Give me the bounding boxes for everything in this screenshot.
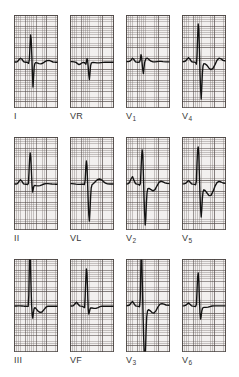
ecg-panel-V6 (182, 259, 226, 352)
ecg-row-chest-leads: III VF V3 V6 (0, 248, 239, 370)
lead-label-VL: VL (70, 233, 124, 244)
ecg-row-limb-leads-2: II VL V2 V5 (0, 126, 239, 248)
lead-label-text: II (14, 233, 19, 243)
ecg-trace-V3 (126, 259, 170, 352)
lead-label-VR: VR (70, 111, 124, 122)
ecg-trace-VF (70, 259, 114, 352)
ecg-panel-V3 (126, 259, 170, 352)
ecg-trace-V5 (182, 137, 226, 230)
lead-label-V4: V4 (182, 111, 236, 122)
lead-label-I: I (14, 111, 68, 122)
ecg-trace-V1 (126, 15, 170, 108)
lead-label-V3: V3 (126, 355, 180, 366)
ecg-trace-I (14, 15, 58, 108)
lead-label-text: V (126, 233, 132, 243)
ecg-panel-V4 (182, 15, 226, 108)
lead-label-text: V (182, 355, 188, 365)
lead-label-subscript: 4 (189, 115, 193, 122)
ecg-trace-II (14, 137, 58, 230)
ecg-trace-V6 (182, 259, 226, 352)
ecg-panel-I (14, 15, 58, 108)
ecg-figure: I VR V1 V4 II (0, 0, 239, 377)
ecg-panel-VR (70, 15, 114, 108)
ecg-row-limb-leads-1: I VR V1 V4 (0, 4, 239, 126)
lead-label-subscript: 1 (133, 115, 137, 122)
ecg-panel-V1 (126, 15, 170, 108)
lead-label-V6: V6 (182, 355, 236, 366)
lead-label-subscript: 2 (133, 237, 137, 244)
ecg-panel-II (14, 137, 58, 230)
lead-label-VF: VF (70, 355, 124, 366)
lead-label-text: VL (70, 233, 81, 243)
ecg-panel-III (14, 259, 58, 352)
ecg-trace-VL (70, 137, 114, 230)
lead-label-text: V (182, 111, 188, 121)
lead-label-text: VR (70, 111, 83, 121)
lead-label-text: V (182, 233, 188, 243)
ecg-trace-VR (70, 15, 114, 108)
ecg-panel-VL (70, 137, 114, 230)
lead-label-subscript: 3 (133, 359, 137, 366)
lead-label-V2: V2 (126, 233, 180, 244)
lead-label-text: V (126, 111, 132, 121)
ecg-panel-V5 (182, 137, 226, 230)
lead-label-text: I (14, 111, 17, 121)
lead-label-text: III (14, 355, 22, 365)
lead-label-V5: V5 (182, 233, 236, 244)
lead-label-V1: V1 (126, 111, 180, 122)
ecg-trace-V2 (126, 137, 170, 230)
lead-label-text: VF (70, 355, 82, 365)
lead-label-II: II (14, 233, 68, 244)
lead-label-III: III (14, 355, 68, 366)
lead-label-subscript: 6 (189, 359, 193, 366)
ecg-panel-VF (70, 259, 114, 352)
ecg-panel-V2 (126, 137, 170, 230)
lead-label-text: V (126, 355, 132, 365)
lead-label-subscript: 5 (189, 237, 193, 244)
ecg-trace-V4 (182, 15, 226, 108)
ecg-trace-III (14, 259, 58, 352)
